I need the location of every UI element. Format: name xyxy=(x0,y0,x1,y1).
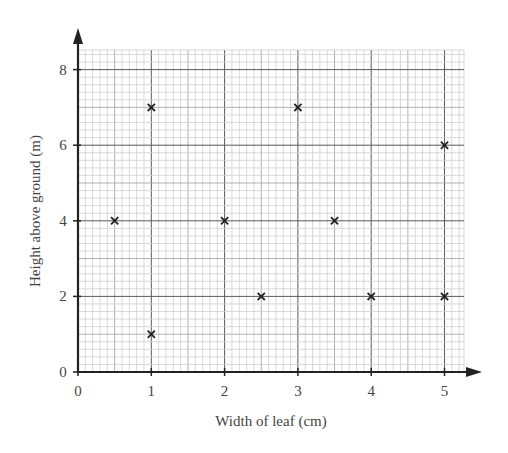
axes xyxy=(73,28,482,377)
grid xyxy=(78,50,464,372)
y-tick-label: 6 xyxy=(59,137,67,153)
x-tick-label: 0 xyxy=(74,383,82,399)
y-tick-label: 4 xyxy=(59,213,67,229)
x-tick-label: 1 xyxy=(148,383,156,399)
y-axis-arrow-icon xyxy=(73,28,83,44)
x-tick-label: 4 xyxy=(367,383,375,399)
y-axis-title: Height above ground (m) xyxy=(27,135,44,287)
y-tick-label: 0 xyxy=(59,364,67,380)
y-tick-label: 8 xyxy=(59,62,67,78)
chart-canvas: 01234502468 Width of leaf (cm) Height ab… xyxy=(0,0,508,453)
x-tick-label: 5 xyxy=(441,383,449,399)
x-axis-arrow-icon xyxy=(466,367,482,377)
x-tick-label: 3 xyxy=(294,383,302,399)
x-axis-title: Width of leaf (cm) xyxy=(215,413,326,430)
x-tick-label: 2 xyxy=(221,383,229,399)
y-tick-label: 2 xyxy=(59,288,67,304)
scatter-chart: 01234502468 Width of leaf (cm) Height ab… xyxy=(0,0,508,453)
